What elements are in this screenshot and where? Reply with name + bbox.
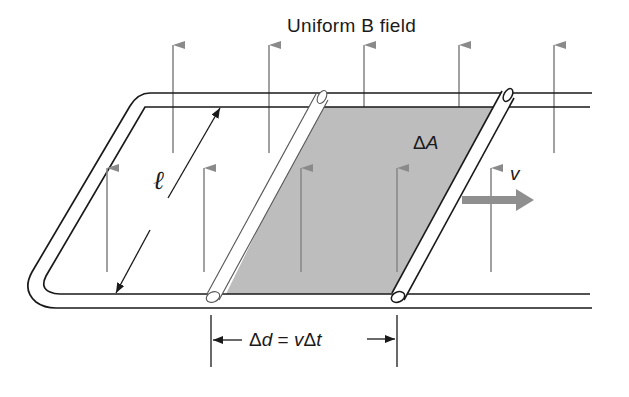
area-symbol: A xyxy=(426,132,439,153)
displacement-equation: Δd = vΔt xyxy=(249,329,321,351)
displacement-delta: Δ xyxy=(249,329,262,350)
time-symbol: t xyxy=(316,329,321,350)
velocity-symbol: v xyxy=(294,329,304,350)
velocity-arrow-icon xyxy=(462,189,534,211)
time-delta: Δ xyxy=(303,329,316,350)
length-label: ℓ xyxy=(153,165,164,196)
equals-sign: = xyxy=(272,329,294,350)
field-title: Uniform B field xyxy=(287,15,416,37)
area-delta: Δ xyxy=(413,132,426,153)
displacement-symbol: d xyxy=(262,329,273,350)
velocity-label: v xyxy=(510,163,520,185)
area-label: ΔA xyxy=(413,132,438,154)
